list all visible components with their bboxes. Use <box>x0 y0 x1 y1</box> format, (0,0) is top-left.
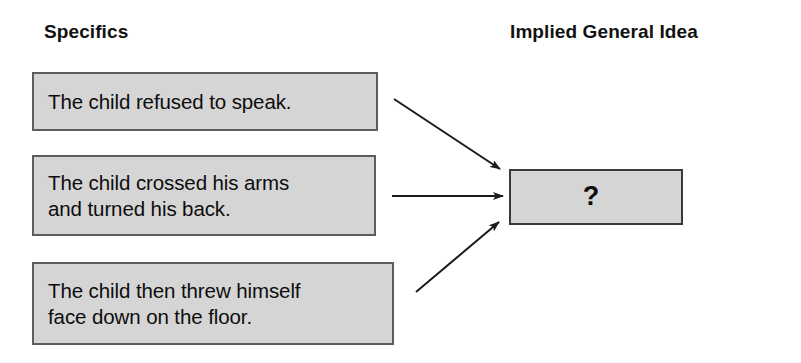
specific-box-3: The child then threw himself face down o… <box>32 262 394 345</box>
specific-box-1-text: The child refused to speak. <box>48 89 291 115</box>
implied-general-idea-box: ? <box>509 169 683 225</box>
diagram-canvas: Specifics Implied General Idea The child… <box>0 0 801 363</box>
column-header-implied-general-idea: Implied General Idea <box>510 21 698 43</box>
arrow-specific-3-to-idea <box>416 222 499 292</box>
column-header-specifics: Specifics <box>44 21 128 43</box>
specific-box-3-text: The child then threw himself face down o… <box>48 278 300 330</box>
arrow-specific-1-to-idea <box>394 99 500 169</box>
specific-box-1: The child refused to speak. <box>32 72 378 131</box>
question-mark-label: ? <box>583 183 600 210</box>
specific-box-2-text: The child crossed his arms and turned hi… <box>48 170 289 222</box>
specific-box-2: The child crossed his arms and turned hi… <box>32 155 376 236</box>
